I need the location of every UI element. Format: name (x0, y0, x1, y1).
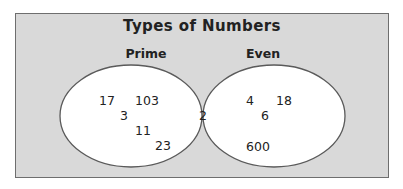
even-number: 6 (261, 108, 269, 123)
prime-number: 11 (135, 123, 151, 138)
even-number: 600 (246, 139, 270, 154)
prime-number: 3 (120, 108, 128, 123)
prime-even-number: 2 (199, 108, 207, 123)
prime-number: 17 (99, 93, 115, 108)
prime-number: 103 (135, 93, 159, 108)
even-number: 4 (246, 93, 254, 108)
prime-number: 23 (155, 138, 171, 153)
even-number: 18 (276, 93, 292, 108)
venn-diagram (0, 0, 403, 189)
